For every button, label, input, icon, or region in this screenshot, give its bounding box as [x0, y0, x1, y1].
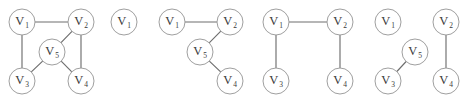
- node-subscript-v1: 1: [25, 21, 29, 30]
- graph-edge-v2-v5: [61, 31, 72, 42]
- node-label-v1: V: [15, 14, 24, 28]
- node-subscript-v5: 5: [418, 51, 422, 60]
- node-label-v2: V: [74, 14, 83, 28]
- node-subscript-v1: 1: [175, 21, 179, 30]
- node-label-v1: V: [381, 14, 390, 28]
- node-subscript-v4: 4: [449, 80, 453, 89]
- graph-node-v3: V3: [9, 68, 35, 94]
- node-label-v4: V: [74, 73, 83, 87]
- node-label-v1: V: [165, 14, 174, 28]
- graph-1: V1V2V5V3V4: [9, 9, 94, 94]
- graph-node-v3: V3: [375, 68, 401, 94]
- node-subscript-v3: 3: [391, 80, 395, 89]
- node-label-v3: V: [15, 73, 24, 87]
- graph-node-v2: V2: [433, 9, 459, 35]
- graph-node-v5: V5: [39, 39, 65, 65]
- graph-figure: V1V2V5V3V4V1V1V2V5V4V1V2V3V4V1V2V5V3V4: [0, 0, 468, 104]
- graph-node-v4: V4: [68, 68, 94, 94]
- node-subscript-v1: 1: [127, 21, 131, 30]
- graph-edge-v2-v5: [209, 31, 221, 43]
- graph-edge-v5-v4: [61, 61, 72, 72]
- node-subscript-v5: 5: [203, 51, 207, 60]
- node-subscript-v3: 3: [25, 80, 29, 89]
- node-subscript-v4: 4: [233, 80, 237, 89]
- graph-4: V1V2V3V4: [263, 9, 353, 94]
- node-label-v4: V: [223, 73, 232, 87]
- node-subscript-v4: 4: [84, 80, 88, 89]
- graph-node-v2: V2: [217, 9, 243, 35]
- graph-node-v4: V4: [217, 68, 243, 94]
- node-label-v5: V: [193, 44, 202, 58]
- node-subscript-v5: 5: [55, 51, 59, 60]
- graph-2: V1: [111, 9, 137, 35]
- graph-node-v4: V4: [433, 68, 459, 94]
- node-subscript-v2: 2: [343, 21, 347, 30]
- graph-3: V1V2V5V4: [159, 9, 243, 94]
- graph-5: V1V2V5V3V4: [375, 9, 459, 94]
- graph-edge-v5-v3: [397, 62, 406, 72]
- graph-node-v1: V1: [111, 9, 137, 35]
- node-subscript-v2: 2: [233, 21, 237, 30]
- node-label-v5: V: [45, 44, 54, 58]
- node-label-v2: V: [439, 14, 448, 28]
- node-label-v1: V: [117, 14, 126, 28]
- node-label-v1: V: [269, 14, 278, 28]
- graph-node-v1: V1: [263, 9, 289, 35]
- graph-node-v2: V2: [327, 9, 353, 35]
- graph-node-v1: V1: [375, 9, 401, 35]
- graph-canvas: V1V2V5V3V4V1V1V2V5V4V1V2V3V4V1V2V5V3V4: [0, 0, 468, 104]
- node-label-v4: V: [439, 73, 448, 87]
- graph-node-v5: V5: [187, 39, 213, 65]
- node-label-v3: V: [381, 73, 390, 87]
- node-subscript-v1: 1: [391, 21, 395, 30]
- node-label-v5: V: [408, 44, 417, 58]
- node-label-v3: V: [269, 73, 278, 87]
- node-subscript-v2: 2: [449, 21, 453, 30]
- node-label-v2: V: [223, 14, 232, 28]
- graph-edge-v5-v4: [209, 61, 220, 72]
- graph-node-v1: V1: [159, 9, 185, 35]
- node-label-v4: V: [333, 73, 342, 87]
- graph-node-v4: V4: [327, 68, 353, 94]
- graph-node-v5: V5: [402, 39, 428, 65]
- graph-node-v1: V1: [9, 9, 35, 35]
- node-label-v2: V: [333, 14, 342, 28]
- graph-node-v2: V2: [68, 9, 94, 35]
- node-subscript-v4: 4: [343, 80, 347, 89]
- node-subscript-v1: 1: [279, 21, 283, 30]
- graph-node-v3: V3: [263, 68, 289, 94]
- graph-edge-v5-v3: [31, 61, 42, 72]
- node-subscript-v3: 3: [279, 80, 283, 89]
- node-subscript-v2: 2: [84, 21, 88, 30]
